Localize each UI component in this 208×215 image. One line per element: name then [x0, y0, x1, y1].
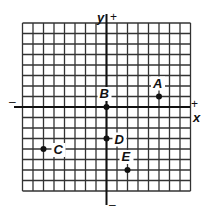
y-axis-label: y: [96, 10, 105, 25]
y-negative-sign: –: [109, 198, 116, 212]
x-axis-label: x: [192, 110, 201, 125]
coordinate-plane: y + – – + x ABCDE: [0, 0, 208, 215]
point-marker: [125, 167, 131, 173]
point-marker: [41, 146, 47, 152]
points: ABCDE: [41, 76, 166, 174]
point-label: B: [100, 86, 109, 101]
point-label: D: [115, 132, 125, 147]
point-label: C: [54, 142, 64, 157]
point-marker: [104, 104, 110, 110]
axes: y + – – + x: [9, 10, 201, 212]
point-label: E: [122, 149, 131, 164]
x-negative-sign: –: [9, 95, 16, 109]
x-positive-sign: +: [191, 97, 198, 111]
point-c: C: [41, 142, 66, 157]
point-label: A: [152, 76, 162, 91]
point-marker: [156, 94, 162, 100]
y-positive-sign: +: [110, 10, 117, 24]
point-marker: [104, 136, 110, 142]
